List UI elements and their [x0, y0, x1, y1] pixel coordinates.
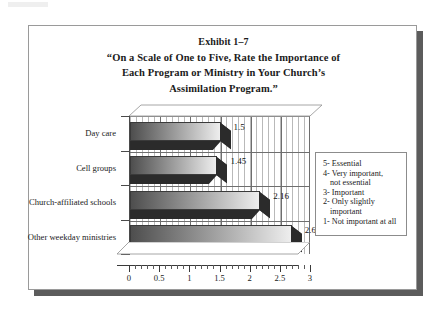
x-axis-tick-minor	[268, 265, 269, 269]
legend-item: 3- Important	[323, 188, 406, 198]
legend-item: 2- Only slightly	[323, 197, 406, 207]
legend-item: 5- Essential	[323, 159, 406, 169]
x-axis-tick-major	[220, 265, 221, 272]
bar-bottom-face	[129, 141, 221, 150]
x-axis-tick-label: 2.5	[269, 273, 291, 283]
chart-3d-top-cap	[117, 104, 322, 116]
x-axis-tick-label: 1	[178, 273, 200, 283]
x-axis-tick-major	[310, 265, 311, 272]
bar-face	[130, 122, 221, 141]
x-axis-tick-minor	[147, 265, 148, 269]
x-axis-tick-label: 3	[299, 273, 321, 283]
x-axis-tick-minor	[171, 265, 172, 269]
bar-bottom-face	[129, 175, 217, 184]
x-axis-tick-label: 1.5	[209, 273, 231, 283]
x-axis-tick-minor	[213, 265, 214, 269]
x-axis-tick-minor	[207, 265, 208, 269]
legend-item: 1- Not important at all	[323, 217, 406, 227]
x-axis-tick-minor	[183, 265, 184, 269]
scan-artifact	[8, 2, 48, 7]
x-axis-tick-minor	[274, 265, 275, 269]
x-axis-tick-minor	[165, 265, 166, 269]
x-axis-tick-minor	[135, 265, 136, 269]
exhibit-panel: Exhibit 1–7 “On a Scale of One to Five, …	[28, 25, 417, 290]
legend-item: 4- Very important,	[323, 169, 406, 179]
category-separator	[130, 152, 309, 153]
x-axis-tick-minor	[256, 265, 257, 269]
category-label: Church-affiliated schools	[0, 197, 116, 207]
chart-title-line-3: Assimilation Program.”	[29, 81, 418, 97]
category-label: Day care	[0, 128, 116, 138]
x-axis-tick-major	[159, 265, 160, 272]
bar[interactable]	[130, 156, 217, 175]
bar-face	[130, 156, 217, 175]
x-axis-tick-major	[250, 265, 251, 272]
x-axis-tick-minor	[244, 265, 245, 269]
bar-value-label: 2.16	[273, 191, 289, 201]
chart-back-wall	[129, 116, 310, 254]
title-block: Exhibit 1–7 “On a Scale of One to Five, …	[29, 34, 418, 96]
bar-face	[130, 191, 260, 210]
bar-value-label: 1.45	[230, 156, 246, 166]
legend-box: 5- Essential4- Very important,not essent…	[315, 152, 407, 236]
category-axis-labels: Day careCell groupsChurch-affiliated sch…	[29, 104, 116, 254]
x-axis-tick-minor	[286, 265, 287, 269]
bar[interactable]	[130, 191, 260, 210]
plot-area: 1.51.452.162.68 00.511.522.53	[117, 104, 322, 269]
chart-title-line-2: Each Program or Ministry in Your Church’…	[29, 65, 418, 81]
category-label: Cell groups	[0, 163, 116, 173]
chart-title-line-1: “On a Scale of One to Five, Rate the Imp…	[29, 50, 418, 66]
y-axis-tick	[121, 151, 130, 152]
x-axis-tick-minor	[232, 265, 233, 269]
bar-value-label: 1.5	[234, 122, 245, 132]
x-axis-tick-minor	[201, 265, 202, 269]
x-axis-tick-minor	[238, 265, 239, 269]
exhibit-number: Exhibit 1–7	[29, 34, 418, 50]
legend-item: important	[323, 207, 406, 217]
category-separator	[130, 186, 309, 187]
category-label: Other weekday ministries	[0, 232, 116, 242]
y-axis-tick	[121, 220, 130, 221]
category-separator	[130, 221, 309, 222]
x-axis-tick-minor	[226, 265, 227, 269]
x-axis: 00.511.522.53	[117, 254, 322, 289]
x-axis-tick-minor	[298, 265, 299, 269]
x-axis-tick-minor	[262, 265, 263, 269]
bar[interactable]	[130, 122, 221, 141]
bar-bottom-face	[129, 210, 260, 219]
y-axis-tick	[121, 116, 130, 117]
bar-chart: Day careCell groupsChurch-affiliated sch…	[29, 104, 418, 289]
x-axis-tick-minor	[195, 265, 196, 269]
x-axis-tick-label: 0.5	[148, 273, 170, 283]
x-axis-tick-minor	[292, 265, 293, 269]
y-axis-tick	[121, 185, 130, 186]
x-axis-tick-label: 2	[239, 273, 261, 283]
x-axis-tick-minor	[177, 265, 178, 269]
x-axis-tick-major	[280, 265, 281, 272]
x-axis-tick-label: 0	[118, 273, 140, 283]
x-axis-tick-major	[189, 265, 190, 272]
legend-item: not essential	[323, 178, 406, 188]
x-axis-tick-minor	[153, 265, 154, 269]
x-axis-tick-major	[129, 265, 130, 272]
x-axis-tick-minor	[304, 265, 305, 269]
x-axis-tick-minor	[141, 265, 142, 269]
